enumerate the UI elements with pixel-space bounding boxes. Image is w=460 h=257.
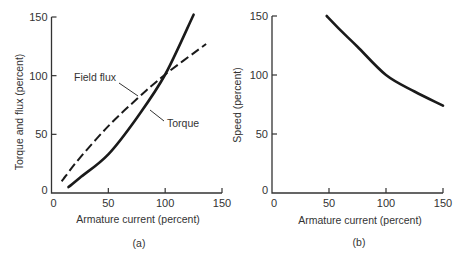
panel-label-b: (b) — [353, 236, 366, 248]
axes-frame-a — [52, 17, 223, 193]
chart-panel-b: 050100150050100150 Armature current (per… — [231, 10, 452, 248]
y-tick-label: 100 — [29, 70, 47, 82]
y-axis-label-b: Speed (percent) — [231, 67, 243, 142]
y-axis-label-a: Torque and flux (percent) — [13, 54, 25, 171]
y-tick-label: 150 — [29, 11, 47, 23]
y-tick-label: 0 — [41, 184, 47, 196]
y-tick-label: 150 — [250, 10, 268, 22]
figure: 050100150050100150 Field flux Torque Arm… — [0, 0, 460, 257]
y-tick-label: 50 — [35, 128, 47, 140]
field-flux-curve — [62, 44, 206, 181]
x-axis-label-b: Armature current (percent) — [298, 214, 422, 226]
x-tick-label: 150 — [213, 197, 231, 209]
panel-label-a: (a) — [133, 237, 146, 249]
chart-panel-a: 050100150050100150 Field flux Torque Arm… — [13, 11, 231, 249]
torque-curve — [69, 15, 194, 187]
x-tick-label: 150 — [434, 197, 452, 209]
x-tick-label: 50 — [323, 197, 335, 209]
y-tick-label: 0 — [262, 184, 268, 196]
x-axis-label-a: Armature current (percent) — [76, 213, 200, 225]
torque-leader-line — [150, 110, 164, 121]
speed-curve — [327, 16, 443, 106]
axes-frame-b — [272, 16, 443, 193]
y-tick-label: 50 — [256, 128, 268, 140]
torque-label: Torque — [167, 117, 199, 129]
field-flux-label: Field flux — [74, 71, 117, 83]
x-tick-label: 100 — [377, 197, 395, 209]
x-tick-label: 0 — [50, 197, 56, 209]
x-tick-label: 50 — [102, 197, 114, 209]
ticks-a: 050100150050100150 — [29, 11, 231, 209]
field-flux-leader-line — [119, 83, 138, 96]
x-tick-label: 0 — [271, 197, 277, 209]
x-tick-label: 100 — [156, 197, 174, 209]
y-tick-label: 100 — [250, 69, 268, 81]
